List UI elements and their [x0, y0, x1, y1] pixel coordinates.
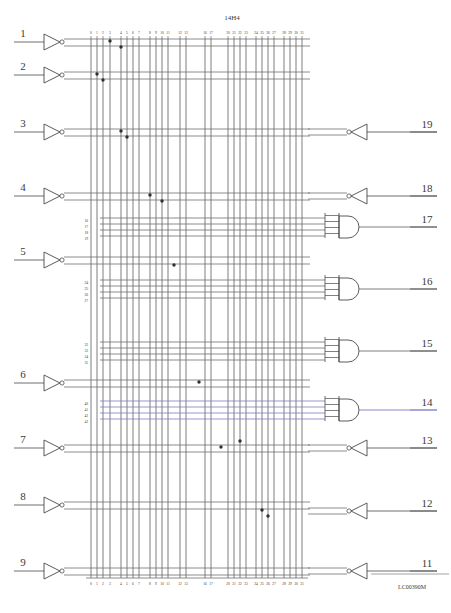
bus-label-bottom: 1	[96, 582, 98, 586]
output-pin-number: 12	[422, 497, 433, 509]
output-pin-number: 14	[422, 396, 434, 408]
input-pin-number: 4	[20, 181, 26, 193]
bus-label-top: 13	[184, 31, 188, 35]
bus-label-bottom: 31	[300, 582, 304, 586]
product-term-label: 35	[84, 361, 88, 365]
junction-dot	[119, 45, 122, 48]
bus-label-bottom: 22	[238, 582, 242, 586]
bus-label-bottom: 25	[260, 582, 264, 586]
logic-array-diagram: 14H4 01234567891011121316172021222324252…	[0, 0, 451, 613]
bus-label-top: 7	[138, 31, 140, 35]
product-term-label: 18	[84, 231, 88, 235]
corner-code-label: LC00390M	[398, 584, 427, 590]
bus-label-bottom: 28	[282, 582, 286, 586]
diagram-title: 14H4	[224, 14, 240, 22]
bus-label-top: 29	[288, 31, 292, 35]
bus-label-bottom: 29	[288, 582, 292, 586]
input-pin-number: 3	[20, 117, 26, 129]
bus-label-top: 0	[90, 31, 92, 35]
junction-dot	[160, 199, 163, 202]
input-pin-number: 1	[20, 27, 26, 39]
junction-dot	[119, 129, 122, 132]
bus-label-bottom: 23	[244, 582, 248, 586]
bus-label-bottom: 11	[166, 582, 170, 586]
bus-label-top: 10	[160, 31, 164, 35]
input-pin-number: 8	[20, 490, 26, 502]
junction-dot	[172, 263, 175, 266]
bus-label-top: 25	[260, 31, 264, 35]
input-pin-number: 5	[20, 245, 26, 257]
bus-label-bottom: 9	[155, 582, 157, 586]
bus-label-top: 12	[178, 31, 182, 35]
bus-label-top: 21	[232, 31, 236, 35]
bus-label-top: 4	[120, 31, 122, 35]
product-term-label: 33	[84, 349, 88, 353]
output-pin-number: 16	[422, 275, 434, 287]
product-term-label: 17	[84, 225, 88, 229]
junction-dot	[266, 514, 269, 517]
bus-label-top: 27	[272, 31, 276, 35]
bus-label-top: 1	[96, 31, 98, 35]
input-pin-number: 2	[20, 60, 26, 72]
bus-label-bottom: 13	[184, 582, 188, 586]
bus-label-top: 17	[209, 31, 213, 35]
junction-dot	[260, 508, 263, 511]
product-term-label: 34	[84, 355, 88, 359]
bus-label-bottom: 5	[126, 582, 128, 586]
bus-label-bottom: 21	[232, 582, 236, 586]
input-pin-number: 7	[20, 433, 26, 445]
bus-label-top: 3	[109, 31, 111, 35]
product-term-label: 24	[84, 281, 88, 285]
bus-label-bottom: 16	[203, 582, 207, 586]
product-term-label: 25	[84, 287, 88, 291]
background	[0, 0, 451, 613]
bus-label-top: 31	[300, 31, 304, 35]
bus-label-top: 8	[149, 31, 151, 35]
bus-label-bottom: 8	[149, 582, 151, 586]
output-pin-number: 11	[422, 557, 433, 569]
junction-dot	[125, 135, 128, 138]
bus-label-bottom: 20	[226, 582, 230, 586]
product-term-label: 42	[84, 414, 88, 418]
bus-label-top: 28	[282, 31, 286, 35]
bus-label-top: 30	[294, 31, 298, 35]
product-term-label: 19	[84, 237, 88, 241]
bus-label-top: 2	[102, 31, 104, 35]
product-term-label: 26	[84, 293, 88, 297]
product-term-label: 32	[84, 343, 88, 347]
junction-dot	[197, 380, 200, 383]
bus-label-bottom: 27	[272, 582, 276, 586]
bus-label-bottom: 17	[209, 582, 213, 586]
junction-dot	[238, 439, 241, 442]
bus-label-bottom: 26	[266, 582, 270, 586]
input-pin-number: 6	[20, 368, 26, 380]
bus-label-bottom: 0	[90, 582, 92, 586]
junction-dot	[219, 445, 222, 448]
junction-dot	[108, 39, 111, 42]
product-term-label: 27	[84, 299, 88, 303]
bus-label-top: 20	[226, 31, 230, 35]
bus-label-bottom: 3	[109, 582, 111, 586]
bus-label-top: 24	[254, 31, 258, 35]
bus-label-top: 5	[126, 31, 128, 35]
bus-label-top: 9	[155, 31, 157, 35]
bus-label-top: 6	[132, 31, 134, 35]
bus-label-bottom: 6	[132, 582, 134, 586]
output-pin-number: 19	[422, 118, 434, 130]
output-pin-number: 18	[422, 182, 434, 194]
logic-diagram-canvas: 14H4 01234567891011121316172021222324252…	[0, 0, 451, 613]
bus-label-top: 23	[244, 31, 248, 35]
junction-dot	[95, 72, 98, 75]
input-pin-number: 9	[20, 556, 26, 568]
bus-label-bottom: 7	[138, 582, 140, 586]
bus-label-bottom: 12	[178, 582, 182, 586]
product-term-label: 41	[84, 408, 88, 412]
junction-dot	[148, 193, 151, 196]
diagram-title-group: 14H4	[224, 14, 240, 22]
bus-label-bottom: 30	[294, 582, 298, 586]
bus-label-top: 11	[166, 31, 170, 35]
product-term-label: 16	[84, 219, 88, 223]
bus-label-top: 26	[266, 31, 270, 35]
bus-label-top: 22	[238, 31, 242, 35]
output-pin-number: 17	[422, 213, 434, 225]
